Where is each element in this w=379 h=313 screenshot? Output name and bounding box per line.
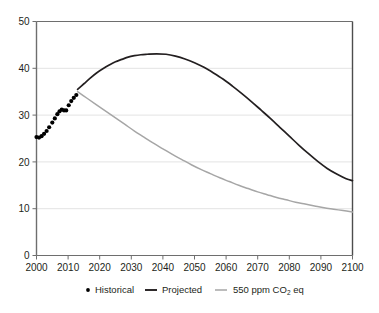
x-tick-label-2080: 2080 — [278, 262, 301, 273]
historical-point-13 — [67, 103, 71, 107]
legend-label-projected: Projected — [162, 284, 202, 295]
chart-legend: HistoricalProjected550 ppm CO2 eq — [86, 284, 304, 296]
x-tick-label-2100: 2100 — [341, 262, 364, 273]
y-tick-label-20: 20 — [18, 157, 30, 168]
y-tick-label-10: 10 — [18, 203, 30, 214]
historical-point-7 — [53, 116, 57, 120]
chart-container: 01020304050 2000201020202030204020502060… — [0, 0, 379, 313]
legend-marker-historical-dot-icon — [86, 288, 90, 292]
x-tick-label-2060: 2060 — [215, 262, 238, 273]
x-tick-label-2050: 2050 — [183, 262, 206, 273]
historical-point-16 — [74, 93, 78, 97]
x-tick-label-2010: 2010 — [57, 262, 80, 273]
y-tick-label-0: 0 — [24, 250, 30, 261]
x-tick-label-2020: 2020 — [89, 262, 112, 273]
y-tick-label-50: 50 — [18, 16, 30, 27]
x-tick-label-2030: 2030 — [120, 262, 143, 273]
historical-point-12 — [64, 108, 68, 112]
historical-point-6 — [50, 120, 54, 124]
historical-point-5 — [47, 125, 51, 129]
x-tick-label-2000: 2000 — [25, 262, 48, 273]
y-tick-label-30: 30 — [18, 110, 30, 121]
x-tick-label-2040: 2040 — [152, 262, 175, 273]
x-tick-label-2090: 2090 — [310, 262, 333, 273]
x-axis-tick-labels: 2000201020202030204020502060207020802090… — [25, 262, 364, 273]
x-tick-label-2070: 2070 — [247, 262, 270, 273]
y-tick-label-40: 40 — [18, 63, 30, 74]
emissions-line-chart: 01020304050 2000201020202030204020502060… — [0, 0, 379, 313]
legend-label-550ppm-co2eq: 550 ppm CO2 eq — [233, 284, 304, 296]
historical-point-4 — [45, 129, 49, 133]
legend-label-historical: Historical — [95, 284, 134, 295]
